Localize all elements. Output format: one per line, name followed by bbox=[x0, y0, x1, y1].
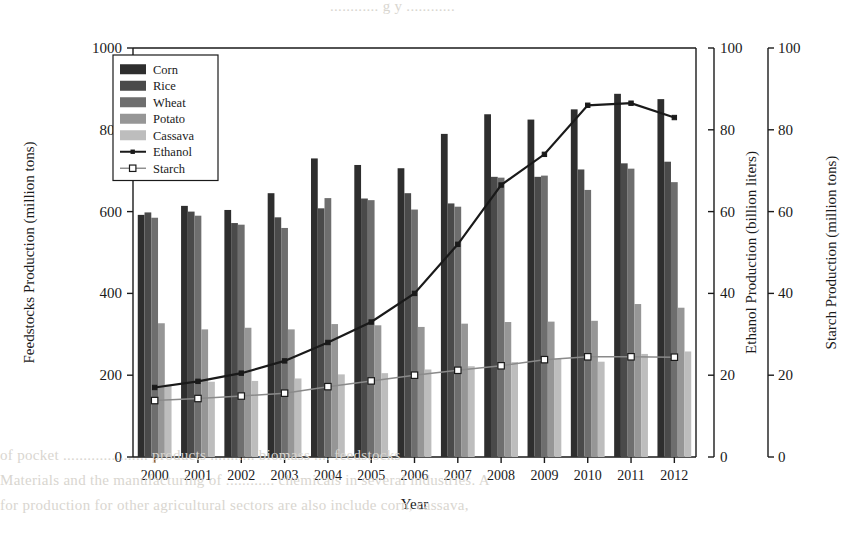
bar bbox=[398, 168, 405, 457]
bar bbox=[441, 134, 448, 457]
data-point-marker bbox=[628, 354, 634, 360]
bar bbox=[158, 323, 165, 457]
bar bbox=[338, 374, 345, 457]
x-tick-label: 2011 bbox=[617, 468, 644, 483]
y-tick-label-left: 0 bbox=[115, 449, 123, 465]
bar bbox=[657, 99, 664, 457]
legend-label: Ethanol bbox=[153, 145, 192, 159]
data-point-marker bbox=[195, 395, 201, 401]
x-tick-label: 2010 bbox=[574, 468, 602, 483]
y-tick-label-starch: 100 bbox=[778, 40, 801, 56]
y-tick-label-left: 200 bbox=[100, 367, 123, 383]
bar bbox=[498, 178, 505, 457]
y-tick-label-ethanol: 0 bbox=[720, 449, 728, 465]
data-point-marker bbox=[368, 378, 374, 384]
x-tick-label: 2007 bbox=[444, 468, 472, 483]
legend-label: Rice bbox=[153, 79, 176, 93]
bar bbox=[664, 162, 671, 457]
bar bbox=[318, 208, 325, 457]
bar bbox=[484, 114, 491, 457]
bar bbox=[448, 203, 455, 457]
grouped-bar-line-chart: 02004006008001000Feedstocks Production (… bbox=[0, 0, 866, 533]
data-point-marker bbox=[498, 363, 504, 369]
bar-series-group bbox=[138, 94, 691, 457]
bar bbox=[534, 177, 541, 457]
bar bbox=[381, 373, 388, 457]
bar bbox=[195, 216, 202, 457]
bar bbox=[274, 217, 281, 457]
data-point-marker bbox=[282, 359, 286, 363]
data-point-marker bbox=[456, 242, 460, 246]
bar bbox=[224, 210, 231, 457]
bar bbox=[151, 218, 158, 457]
bar bbox=[628, 169, 635, 457]
bar bbox=[425, 369, 432, 457]
bar bbox=[641, 354, 648, 457]
y-tick-label-starch: 0 bbox=[778, 449, 786, 465]
bar bbox=[245, 328, 252, 457]
bar bbox=[511, 362, 518, 457]
bar bbox=[145, 212, 152, 457]
legend-marker bbox=[130, 165, 136, 171]
bar bbox=[331, 324, 338, 457]
bar bbox=[634, 304, 641, 457]
legend-label: Potato bbox=[153, 112, 185, 126]
x-tick-label: 2009 bbox=[530, 468, 558, 483]
data-point-marker bbox=[671, 354, 677, 360]
data-point-marker bbox=[281, 390, 287, 396]
bar bbox=[578, 169, 585, 457]
y-tick-label-starch: 40 bbox=[778, 285, 793, 301]
data-point-marker bbox=[325, 383, 331, 389]
bar bbox=[368, 200, 375, 457]
y-tick-label-left: 400 bbox=[100, 285, 123, 301]
bar bbox=[591, 321, 598, 457]
bar bbox=[138, 215, 145, 457]
x-tick-label: 2005 bbox=[357, 468, 385, 483]
legend-label: Starch bbox=[153, 162, 186, 176]
bar bbox=[528, 120, 535, 457]
bar bbox=[311, 158, 318, 457]
data-point-marker bbox=[369, 320, 373, 324]
bar bbox=[541, 176, 548, 457]
bar bbox=[684, 351, 691, 457]
y-tick-label-starch: 20 bbox=[778, 367, 793, 383]
legend: CornRiceWheatPotatoCassavaEthanolStarch bbox=[113, 55, 218, 181]
legend-label: Corn bbox=[153, 63, 179, 77]
data-point-marker bbox=[196, 379, 200, 383]
x-tick-label: 2002 bbox=[227, 468, 255, 483]
y-axis-title-left: Feedstocks Production (million tons) bbox=[21, 141, 38, 363]
y-tick-label-ethanol: 100 bbox=[720, 40, 743, 56]
data-point-marker bbox=[542, 152, 546, 156]
y-tick-label-left: 1000 bbox=[92, 40, 122, 56]
data-point-marker bbox=[672, 115, 676, 119]
x-axis: 2000200120022003200420052006200720082009… bbox=[141, 457, 689, 512]
bar bbox=[418, 327, 425, 457]
data-point-marker bbox=[152, 385, 156, 389]
bar bbox=[504, 322, 511, 457]
bar bbox=[375, 325, 382, 457]
bar bbox=[208, 382, 215, 457]
data-point-marker bbox=[412, 291, 416, 295]
bar bbox=[268, 193, 275, 457]
data-point-marker bbox=[151, 397, 157, 403]
legend-swatch bbox=[120, 64, 146, 74]
legend-swatch bbox=[120, 114, 146, 124]
bar bbox=[231, 223, 238, 457]
x-tick-label: 2000 bbox=[141, 468, 169, 483]
legend-swatch bbox=[120, 130, 146, 140]
bar bbox=[165, 385, 172, 457]
bar bbox=[571, 109, 578, 457]
bar bbox=[411, 210, 418, 457]
x-tick-label: 2004 bbox=[314, 468, 342, 483]
x-tick-label: 2012 bbox=[660, 468, 688, 483]
data-point-marker bbox=[238, 393, 244, 399]
bar bbox=[188, 212, 195, 457]
y-tick-label-ethanol: 60 bbox=[720, 204, 735, 220]
x-tick-label: 2006 bbox=[401, 468, 429, 483]
data-point-marker bbox=[586, 103, 590, 107]
bar bbox=[281, 228, 288, 457]
bar bbox=[584, 190, 591, 457]
data-point-marker bbox=[326, 340, 330, 344]
bar bbox=[404, 193, 411, 457]
bar bbox=[598, 362, 605, 457]
